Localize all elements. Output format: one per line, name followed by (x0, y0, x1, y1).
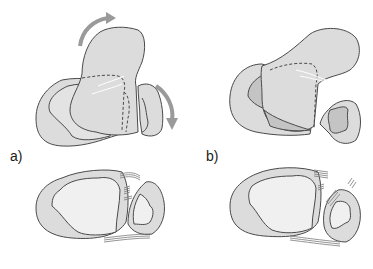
rotation-arrow-top-head-icon (106, 12, 116, 24)
bone-right-b-shaded (328, 107, 348, 133)
panel-a-cross-section (36, 170, 165, 242)
panel-label-a: a) (10, 148, 22, 164)
rotation-arrow-right-head-icon (166, 118, 178, 130)
panel-label-b: b) (206, 148, 218, 164)
bone-right-a (138, 84, 163, 136)
panel-a-top-view (36, 12, 178, 146)
panel-b-cross-section (230, 168, 360, 246)
panel-b-top-view (230, 28, 361, 143)
diagram-canvas (0, 0, 373, 269)
